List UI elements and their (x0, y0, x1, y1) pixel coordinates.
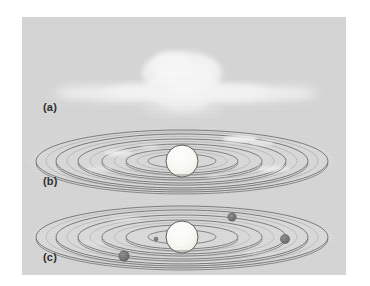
figure-root: (a) (0, 0, 370, 286)
central-star (166, 221, 198, 253)
panel-a-cloud-stage: (a) (22, 17, 346, 123)
panel-c-graphic (22, 199, 346, 275)
planet-right (280, 234, 289, 243)
planet-upper-right (228, 213, 236, 221)
planet-inner (154, 237, 158, 241)
panel-a-graphic (22, 17, 346, 123)
panel-label-a: (a) (43, 101, 57, 113)
panel-label-c: (c) (43, 251, 57, 263)
panel-b-disk-stage: (b) (22, 123, 346, 199)
planet-lower-left (119, 251, 129, 261)
panel-label-b: (b) (43, 175, 58, 187)
figure-plate: (a) (22, 17, 346, 275)
central-star (166, 145, 198, 177)
panel-c-planetary-system-stage: (c) (22, 199, 346, 275)
panel-b-graphic (22, 123, 346, 199)
